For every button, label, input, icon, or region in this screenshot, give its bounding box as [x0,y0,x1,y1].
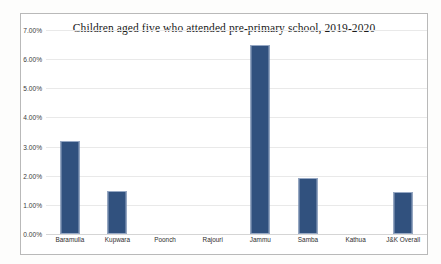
bar-slot [332,30,380,234]
y-axis-tick-label: 3.00% [23,143,42,150]
bar-j-k-overall[interactable] [394,192,413,234]
x-axis-label-jammu: Jammu [250,236,271,243]
x-axis-label-poonch: Poonch [154,236,176,243]
y-axis-tick-label: 5.00% [23,85,42,92]
y-axis-tick-label: 7.00% [23,27,42,34]
bar-baramulla[interactable] [60,141,79,234]
x-axis-label-kathua: Kathua [345,236,365,243]
bar-jammu[interactable] [251,45,270,234]
bar-slot [284,30,332,234]
y-axis-tick-label: 1.00% [23,201,42,208]
bar-slot [94,30,142,234]
y-axis-tick-label: 0.00% [23,231,42,238]
gridline-000 [46,234,427,235]
x-axis-label-j-k-overall: J&K Overall [386,236,420,243]
x-axis-label-kupwara: Kupwara [105,236,130,243]
scanned-page: Children aged five who attended pre-prim… [0,0,441,264]
chart-frame: Children aged five who attended pre-prim… [20,13,428,255]
bar-slot [46,30,94,234]
bar-slot [379,30,427,234]
x-axis-label-baramulla: Baramulla [55,236,84,243]
y-axis-tick-label: 4.00% [23,114,42,121]
plot-area: 0.00%1.00%2.00%3.00%4.00%5.00%6.00%7.00% [46,30,427,234]
x-axis-labels: BaramullaKupwaraPoonchRajouriJammuSambaK… [46,236,427,252]
x-axis-label-samba: Samba [298,236,318,243]
bar-kupwara[interactable] [108,191,127,234]
x-axis-label-rajouri: Rajouri [203,236,223,243]
bar-slot [141,30,189,234]
bar-samba[interactable] [298,178,317,234]
bar-slot [237,30,285,234]
y-axis-tick-label: 6.00% [23,56,42,63]
bar-slot [189,30,237,234]
y-axis-tick-label: 2.00% [23,172,42,179]
